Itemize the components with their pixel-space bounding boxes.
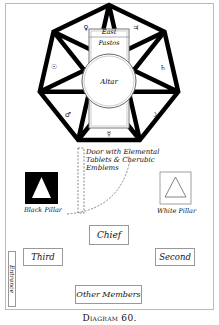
white-pillar [160, 172, 191, 204]
other-members-station: Other Members [75, 285, 142, 304]
moon-glyph-icon: ☽ [151, 111, 157, 119]
second-station: Second [155, 248, 195, 266]
chief-label: Chief [97, 230, 121, 240]
pastos-label: Pastos [97, 39, 120, 47]
diagram-caption: Diagram 60. [0, 313, 219, 323]
sun-glyph-icon: ☉ [51, 63, 57, 71]
white-pillar-label: White Pillar [157, 207, 196, 215]
entrance-label: Entrance [9, 265, 16, 293]
east-label: East [101, 28, 117, 36]
chief-station: Chief [89, 225, 129, 245]
jupiter-glyph-icon: ♃ [133, 24, 139, 32]
saturn-glyph-icon: ♄ [160, 64, 166, 72]
entrance-marker: Entrance [8, 251, 16, 307]
door-label-line-3: Emblems [86, 164, 159, 172]
other-members-label: Other Members [76, 290, 140, 299]
door-label-line-2: Tablets & Cherubic [86, 156, 159, 164]
third-station: Third [23, 248, 63, 266]
third-label: Third [31, 252, 54, 262]
venus-glyph-icon: ♀ [83, 24, 88, 32]
mercury-glyph-icon: ☿ [107, 130, 111, 138]
black-pillar [25, 172, 58, 204]
second-label: Second [159, 252, 191, 262]
altar-label: Altar [99, 78, 118, 86]
black-pillar-label: Black Pillar [24, 206, 62, 214]
door-label: Door with Elemental Tablets & Cherubic E… [86, 148, 159, 172]
mars-glyph-icon: ♂ [65, 111, 71, 119]
door-label-line-1: Door with Elemental [86, 148, 159, 156]
